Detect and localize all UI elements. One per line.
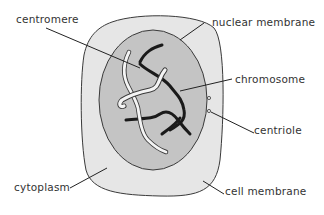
label-centriole: centriole (254, 124, 302, 136)
label-nuclear-membrane: nuclear membrane (212, 16, 315, 28)
cell-diagram: centromere nuclear membrane chromosome c… (0, 0, 324, 215)
label-centromere: centromere (16, 13, 79, 25)
label-chromosome: chromosome (235, 73, 305, 85)
label-cytoplasm: cytoplasm (14, 181, 70, 193)
label-cell-membrane: cell membrane (225, 185, 306, 197)
nucleus (99, 30, 207, 170)
